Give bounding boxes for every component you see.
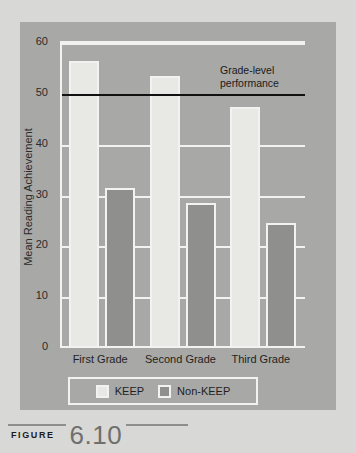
gridline-60	[62, 43, 305, 45]
x-label-third-grade: Third Grade	[231, 353, 290, 365]
y-tick-label-50: 50	[8, 86, 48, 98]
chart-panel: Mean Reading Achievement 0102030405060 G…	[20, 22, 336, 410]
bar-second-grade-non-keep	[186, 203, 216, 348]
bar-third-grade-non-keep	[266, 223, 296, 348]
figure-caption: FIGURE 6.10	[8, 421, 348, 449]
y-tick-label-20: 20	[8, 238, 48, 250]
x-axis-line	[62, 346, 305, 348]
legend-label-keep: KEEP	[115, 385, 144, 397]
bar-first-grade-non-keep	[105, 188, 135, 348]
legend-item-non-keep[interactable]: Non-KEEP	[158, 385, 230, 398]
legend-swatch-keep	[96, 385, 109, 398]
y-tick-label-40: 40	[8, 137, 48, 149]
y-tick-label-30: 30	[8, 188, 48, 200]
x-label-second-grade: Second Grade	[145, 353, 216, 365]
y-tick-label-0: 0	[8, 340, 48, 352]
bar-third-grade-keep	[230, 107, 260, 348]
grade-level-performance-label-line2: performance	[220, 77, 279, 90]
y-tick-label-60: 60	[8, 35, 48, 47]
legend-swatch-non-keep	[158, 385, 171, 398]
plot-area: Grade-levelperformance	[60, 41, 305, 348]
y-tick-label-10: 10	[8, 289, 48, 301]
bar-second-grade-keep	[150, 76, 180, 348]
x-label-first-grade: First Grade	[73, 353, 128, 365]
figure-container: Mean Reading Achievement 0102030405060 G…	[0, 0, 356, 453]
figure-number: 6.10	[66, 421, 127, 449]
grade-level-reference-line	[62, 94, 305, 96]
grade-level-performance-label: Grade-levelperformance	[220, 64, 279, 90]
bar-first-grade-keep	[69, 61, 99, 348]
chart-legend: KEEP Non-KEEP	[68, 377, 258, 405]
figure-label: FIGURE	[8, 430, 58, 440]
legend-label-non-keep: Non-KEEP	[177, 385, 230, 397]
legend-item-keep[interactable]: KEEP	[96, 385, 144, 398]
plot-inner: Grade-levelperformance	[62, 43, 305, 348]
